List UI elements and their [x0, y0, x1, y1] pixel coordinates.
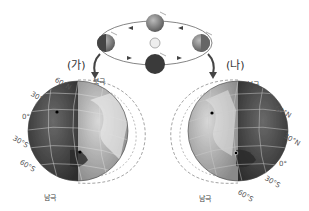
panel-label-na: (나) [226, 56, 245, 72]
south-pole-label: 남극 [199, 193, 211, 203]
north-pole-label: 북극 [93, 76, 105, 86]
globe-ga [28, 80, 145, 183]
south-pole-label: 남극 [44, 192, 56, 202]
orbit-diagram [91, 12, 217, 79]
point-marker-icon [210, 111, 213, 114]
arrow-to-na-icon [208, 54, 214, 74]
sun-icon [150, 38, 160, 48]
arrow-to-ga-icon [94, 54, 100, 74]
lat-0-label: 0° [279, 160, 287, 168]
point-marker-icon [78, 150, 81, 153]
globe-na [171, 80, 288, 183]
point-marker-icon [234, 151, 238, 155]
earth-bottom-icon [145, 54, 165, 74]
point-marker-icon [55, 110, 58, 113]
panel-label-ga: (가) [67, 56, 86, 72]
lat-0-label: 0° [22, 113, 30, 121]
earth-top-icon [146, 14, 164, 32]
diagram-canvas [0, 0, 309, 211]
north-pole-label: 북극 [247, 79, 259, 89]
